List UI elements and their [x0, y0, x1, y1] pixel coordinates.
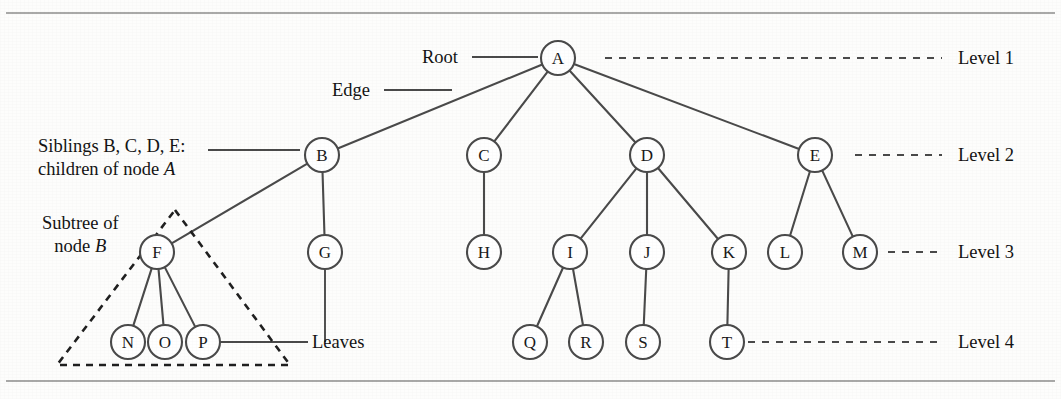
- leaves-annotation-label: Leaves: [312, 332, 364, 352]
- subtree-annotation-line2: node B: [54, 236, 106, 256]
- tree-edge-f-n: [133, 268, 152, 326]
- tree-node-l: L: [768, 235, 802, 269]
- siblings-annotation-line2: children of node A: [38, 159, 176, 179]
- level-label-3: Level 3: [958, 242, 1014, 262]
- node-label-t: T: [722, 333, 733, 352]
- tree-edge-i-r: [573, 269, 583, 326]
- node-label-l: L: [780, 243, 790, 262]
- node-label-a: A: [552, 49, 565, 68]
- level-label-4: Level 4: [958, 332, 1014, 352]
- node-label-f: F: [152, 243, 161, 262]
- tree-node-f: F: [140, 235, 174, 269]
- level-label-2: Level 2: [958, 145, 1014, 165]
- tree-edge-d-k: [658, 168, 718, 239]
- node-label-j: J: [644, 243, 651, 262]
- tree-edge-f-p: [165, 267, 196, 327]
- tree-node-t: T: [710, 325, 744, 359]
- node-label-b: B: [316, 146, 327, 165]
- tree-node-k: K: [712, 235, 746, 269]
- root-annotation-label: Root: [422, 47, 459, 67]
- tree-node-n: N: [111, 325, 145, 359]
- tree-node-a: A: [541, 41, 575, 75]
- node-label-p: P: [198, 333, 207, 352]
- tree-node-i: I: [553, 235, 587, 269]
- tree-edges: [133, 64, 853, 327]
- tree-node-e: E: [798, 138, 832, 172]
- subtree-annotation-line1: Subtree of: [42, 213, 119, 233]
- tree-edge-a-d: [569, 71, 635, 143]
- tree-edge-d-i: [581, 168, 637, 238]
- tree-node-g: G: [308, 235, 342, 269]
- tree-nodes: ABCDEFGHIJKLMNOPQRST: [111, 41, 877, 359]
- tree-edge-e-m: [822, 170, 853, 236]
- tree-edge-f-o: [159, 269, 164, 325]
- tree-edge-i-q: [537, 268, 563, 327]
- node-label-c: C: [478, 146, 489, 165]
- tree-edge-a-e: [574, 64, 799, 149]
- tree-node-c: C: [467, 138, 501, 172]
- node-label-k: K: [723, 243, 736, 262]
- node-label-o: O: [159, 333, 171, 352]
- tree-node-r: R: [569, 325, 603, 359]
- tree-node-o: O: [148, 325, 182, 359]
- node-label-i: I: [567, 243, 573, 262]
- node-label-m: M: [852, 243, 867, 262]
- tree-node-m: M: [843, 235, 877, 269]
- tree-node-p: P: [186, 325, 220, 359]
- tree-edge-j-s: [644, 269, 646, 325]
- node-label-g: G: [319, 243, 331, 262]
- node-label-q: Q: [524, 333, 536, 352]
- annotation-leader-lines: [208, 57, 538, 342]
- tree-edge-a-b: [338, 64, 543, 148]
- node-label-d: D: [641, 146, 653, 165]
- node-label-h: H: [478, 243, 490, 262]
- tree-edge-e-l: [790, 171, 810, 236]
- edge-annotation-label: Edge: [332, 80, 370, 100]
- node-label-s: S: [638, 333, 647, 352]
- tree-diagram-figure: ABCDEFGHIJKLMNOPQRST Level 1Level 2Level…: [0, 0, 1061, 399]
- tree-diagram-canvas: ABCDEFGHIJKLMNOPQRST Level 1Level 2Level…: [0, 0, 1061, 399]
- tree-node-d: D: [630, 138, 664, 172]
- tree-node-s: S: [626, 325, 660, 359]
- siblings-annotation-line1: Siblings B, C, D, E:: [38, 136, 186, 156]
- node-label-e: E: [810, 146, 820, 165]
- level-guide-lines: [605, 58, 942, 342]
- tree-node-j: J: [630, 235, 664, 269]
- tree-edge-k-t: [727, 269, 728, 325]
- tree-node-h: H: [467, 235, 501, 269]
- tree-node-b: B: [305, 138, 339, 172]
- node-label-n: N: [122, 333, 134, 352]
- tree-node-q: Q: [513, 325, 547, 359]
- level-label-1: Level 1: [958, 48, 1014, 68]
- node-label-r: R: [580, 333, 592, 352]
- tree-edge-b-g: [323, 172, 325, 235]
